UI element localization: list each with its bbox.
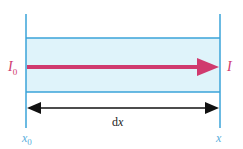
- label-position-x0: x0: [22, 132, 32, 147]
- label-transmitted-intensity: I: [227, 60, 232, 74]
- label-width-dx: dx: [112, 116, 123, 128]
- width-dimension-arrow-icon: [27, 102, 219, 114]
- label-incident-intensity: I0: [8, 60, 17, 77]
- label-position-x: x: [216, 132, 221, 144]
